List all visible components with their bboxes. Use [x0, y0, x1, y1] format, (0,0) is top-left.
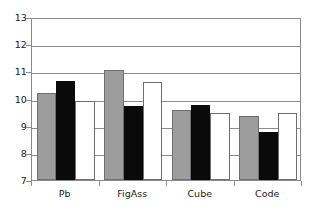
- bar-code-series-3: [278, 113, 297, 180]
- bar-code-series-2: [259, 132, 278, 180]
- x-tick-mark-4: [301, 181, 302, 186]
- bar-pb-series-1: [37, 93, 56, 180]
- plot-area: [31, 18, 301, 181]
- bar-pb-series-2: [56, 81, 75, 180]
- x-tick-mark-0: [31, 181, 32, 186]
- x-tick-mark-1: [99, 181, 100, 186]
- gridline-y-12: [32, 46, 300, 47]
- y-tick-label-8: 8: [3, 149, 27, 159]
- bar-chart: 78910111213 PbFigAssCubeCode: [0, 0, 314, 210]
- y-tick-label-12: 12: [3, 40, 27, 50]
- gridline-y-11: [32, 73, 300, 74]
- x-category-label-pb: Pb: [31, 189, 99, 199]
- x-category-label-figass: FigAss: [99, 189, 167, 199]
- bar-pb-series-3: [75, 101, 94, 180]
- y-tick-label-13: 13: [3, 13, 27, 23]
- bar-cube-series-3: [210, 113, 229, 180]
- bar-figass-series-2: [124, 106, 143, 180]
- y-tick-label-11: 11: [3, 67, 27, 77]
- bar-figass-series-1: [104, 70, 123, 180]
- x-tick-mark-3: [234, 181, 235, 186]
- y-tick-label-10: 10: [3, 95, 27, 105]
- y-tick-label-9: 9: [3, 122, 27, 132]
- x-tick-mark-2: [166, 181, 167, 186]
- bar-cube-series-1: [172, 110, 191, 180]
- bar-cube-series-2: [191, 105, 210, 180]
- x-category-label-cube: Cube: [166, 189, 234, 199]
- bar-figass-series-3: [143, 82, 162, 180]
- x-category-label-code: Code: [234, 189, 302, 199]
- bar-code-series-1: [239, 116, 258, 180]
- y-tick-label-7: 7: [3, 176, 27, 186]
